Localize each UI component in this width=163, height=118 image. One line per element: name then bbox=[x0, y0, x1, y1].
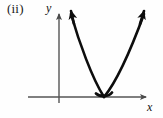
parabola-left-branch bbox=[71, 14, 104, 97]
parabola-graph-svg bbox=[0, 0, 163, 118]
x-axis-label: x bbox=[147, 101, 152, 113]
parabola-vertex bbox=[96, 93, 112, 97]
y-axis-label: y bbox=[46, 2, 51, 14]
parabola-figure: (ii) y x bbox=[0, 0, 163, 118]
parabola-left-arrowhead bbox=[71, 11, 74, 24]
parabola-right-branch bbox=[104, 14, 144, 97]
